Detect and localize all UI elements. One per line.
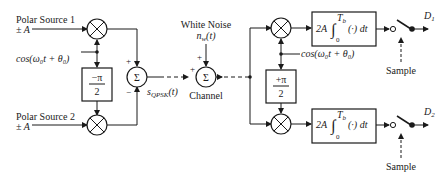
qpsk-signal-label: sQPSK(t)	[147, 86, 179, 99]
sample-label-1: Sample	[386, 65, 417, 76]
channel-summer: Σ	[196, 67, 216, 87]
phase-shift-tx-box: −π 2	[82, 68, 112, 101]
phase-shift-tx-den: 2	[95, 86, 100, 97]
source1-amplitude: ± A	[16, 24, 31, 35]
multiplier-rx-1	[271, 18, 291, 38]
sample-switch-1	[390, 20, 428, 32]
noise-label: nw(t)	[196, 30, 216, 43]
channel-plus-top: +	[197, 52, 202, 62]
channel-label: Channel	[189, 90, 223, 101]
qpsk-block-diagram: Polar Source 1 ± A cos(ω₀t + θ₀) −π 2 Po…	[0, 0, 448, 185]
carrier-label-rx: cos(ω₀t + θ₀)	[301, 48, 355, 60]
carrier-label-tx: cos(ω₀t + θ₀)	[16, 53, 70, 65]
integrator-1: 2A ∫ Tb 0 (·) dt	[312, 12, 376, 46]
source2-amplitude: ± A	[16, 121, 31, 132]
phase-shift-tx-num: −π	[92, 72, 103, 83]
channel-plus-left: +	[190, 64, 195, 74]
svg-text:2A: 2A	[316, 119, 328, 130]
svg-text:0: 0	[336, 36, 340, 44]
svg-text:Σ: Σ	[134, 72, 140, 83]
phase-shift-rx-num: +π	[276, 74, 287, 85]
sample-switch-2	[390, 116, 428, 128]
svg-text:0: 0	[336, 133, 340, 141]
multiplier-2	[87, 115, 107, 135]
multiplier-rx-2	[271, 114, 291, 134]
svg-text:(·) dt: (·) dt	[348, 23, 368, 35]
output-d1: D1	[423, 10, 435, 23]
svg-text:(·) dt: (·) dt	[348, 119, 368, 131]
output-d2: D2	[423, 106, 435, 119]
multiplier-1	[87, 19, 107, 39]
svg-text:2A: 2A	[316, 23, 328, 34]
integrator-2: 2A ∫ Tb 0 (·) dt	[312, 109, 376, 143]
modulator-summer: Σ	[127, 67, 147, 87]
sample-label-2: Sample	[386, 161, 417, 172]
svg-text:Σ: Σ	[203, 72, 209, 83]
phase-shift-rx-den: 2	[279, 88, 284, 99]
white-noise-title: White Noise	[181, 19, 232, 30]
phase-shift-rx-box: +π 2	[266, 70, 296, 103]
summer-plus-sign: +	[126, 56, 131, 66]
summer-minus-sign: −	[126, 87, 131, 97]
